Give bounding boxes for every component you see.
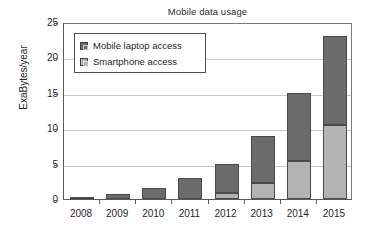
- bar-segment-mobile-laptop-access[interactable]: [178, 178, 202, 199]
- bar-2013[interactable]: [251, 136, 275, 199]
- y-tick-label: 15: [18, 88, 58, 99]
- bar-segment-smartphone-access[interactable]: [323, 125, 347, 199]
- bar-2015[interactable]: [323, 36, 347, 199]
- light-gray-swatch-icon: [80, 58, 88, 66]
- bar-2014[interactable]: [287, 93, 311, 199]
- bar-segment-smartphone-access[interactable]: [251, 183, 275, 199]
- chart-container: Mobile data usage ExaBytes/year 05101520…: [0, 0, 365, 247]
- y-tick-label: 25: [18, 17, 58, 28]
- y-tick-mark: [54, 23, 58, 24]
- x-tick-mark: [99, 200, 100, 204]
- x-tick-label-2008: 2008: [63, 208, 99, 219]
- x-tick-label-2014: 2014: [280, 208, 316, 219]
- legend-item-mobile-laptop-access[interactable]: Mobile laptop access: [80, 38, 200, 54]
- bar-2008[interactable]: [70, 198, 94, 199]
- x-tick-label-2015: 2015: [316, 208, 352, 219]
- x-axis-ticks: [63, 200, 352, 206]
- x-tick-mark: [171, 200, 172, 204]
- chart-title: Mobile data usage: [63, 6, 352, 17]
- x-tick-label-2010: 2010: [135, 208, 171, 219]
- y-tick-mark: [54, 165, 58, 166]
- x-tick-mark: [244, 200, 245, 204]
- x-tick-label-2012: 2012: [208, 208, 244, 219]
- bar-segment-mobile-laptop-access[interactable]: [142, 188, 166, 199]
- chart-legend: Mobile laptop accessSmartphone access: [74, 33, 206, 73]
- x-tick-label-2013: 2013: [244, 208, 280, 219]
- x-axis-tick-labels: 20082009201020112012201320142015: [63, 208, 352, 226]
- y-tick-label: 20: [18, 52, 58, 63]
- bar-segment-mobile-laptop-access[interactable]: [323, 36, 347, 125]
- legend-item-smartphone-access[interactable]: Smartphone access: [80, 54, 200, 70]
- bar-segment-mobile-laptop-access[interactable]: [287, 93, 311, 162]
- y-tick-mark: [54, 58, 58, 59]
- y-tick-label: 0: [18, 194, 58, 205]
- y-axis-tick-labels: 0510152025: [12, 23, 58, 200]
- y-tick-label: 5: [18, 159, 58, 170]
- legend-item-label: Smartphone access: [93, 57, 177, 67]
- bar-segment-mobile-laptop-access[interactable]: [106, 194, 130, 199]
- bar-2009[interactable]: [106, 194, 130, 199]
- bar-2011[interactable]: [178, 178, 202, 199]
- x-tick-label-2009: 2009: [99, 208, 135, 219]
- x-tick-mark: [135, 200, 136, 204]
- y-tick-mark: [54, 94, 58, 95]
- y-tick-mark: [54, 200, 58, 201]
- y-tick-mark: [54, 129, 58, 130]
- x-tick-mark: [208, 200, 209, 204]
- legend-item-label: Mobile laptop access: [93, 41, 182, 51]
- bar-segment-smartphone-access[interactable]: [215, 193, 239, 199]
- bar-2012[interactable]: [215, 164, 239, 199]
- x-tick-label-2011: 2011: [171, 208, 207, 219]
- bar-segment-smartphone-access[interactable]: [287, 161, 311, 199]
- bar-2010[interactable]: [142, 188, 166, 199]
- bar-segment-mobile-laptop-access[interactable]: [215, 164, 239, 194]
- bar-segment-mobile-laptop-access[interactable]: [251, 136, 275, 183]
- x-tick-mark: [316, 200, 317, 204]
- x-tick-mark: [280, 200, 281, 204]
- bar-segment-mobile-laptop-access[interactable]: [70, 197, 94, 199]
- dark-gray-swatch-icon: [80, 42, 88, 50]
- y-tick-label: 10: [18, 123, 58, 134]
